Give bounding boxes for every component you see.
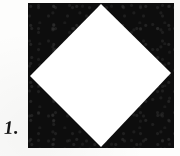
figure-svg (28, 3, 174, 148)
figure-number-caption: 1. (3, 117, 19, 137)
figure-page: 1. (0, 0, 180, 156)
square-with-inscribed-diamond-figure (28, 3, 174, 148)
